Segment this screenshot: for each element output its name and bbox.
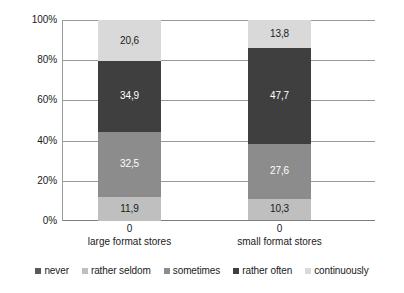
bar-segment-rather-seldom[interactable]: 10,3 [248,199,311,220]
y-tick-label: 40% [11,136,57,146]
bar-segment-value: 11,9 [120,204,138,214]
bar-segment-value: 27,6 [270,166,289,176]
bar-segment-value: 47,7 [270,91,289,101]
x-axis-zero-label: 0 [70,223,190,234]
bar-segment-sometimes[interactable]: 27,6 [248,144,311,199]
bar-segment-sometimes[interactable]: 32,5 [98,132,161,197]
y-axis-line [62,20,63,221]
bar-small-format-stores[interactable]: 13,847,727,610,3 [248,20,311,221]
legend-item-never[interactable]: never [35,266,69,276]
bar-segment-rather-often[interactable]: 47,7 [248,48,311,144]
legend-swatch-icon [305,268,311,274]
legend-item-continuously[interactable]: continuously [305,266,368,276]
bar-segment-rather-seldom[interactable]: 11,9 [98,197,161,221]
legend-item-sometimes[interactable]: sometimes [164,266,220,276]
bar-segment-value: 10,3 [270,204,289,214]
x-axis-zero-label: 0 [220,223,340,234]
y-tick-label: 60% [11,95,57,105]
y-tick-label: 20% [11,176,57,186]
legend-label: sometimes [173,266,220,276]
legend-item-rather-often[interactable]: rather often [233,266,292,276]
bar-segment-value: 20,6 [120,36,139,46]
chart-legend: neverrather seldomsometimesrather oftenc… [0,266,404,276]
legend-swatch-icon [164,268,170,274]
legend-swatch-icon [35,268,41,274]
legend-label: continuously [314,266,368,276]
bar-large-format-stores[interactable]: 20,634,932,511,9 [98,20,161,221]
bar-segment-continuously[interactable]: 20,6 [98,20,161,61]
bar-segment-continuously[interactable]: 13,8 [248,20,311,48]
legend-label: rather seldom [91,266,151,276]
bar-segment-value: 13,8 [270,29,289,39]
bar-segment-value: 32,5 [120,159,139,169]
x-axis-category-label: small format stores [205,236,355,248]
legend-label: rather often [242,266,292,276]
legend-item-rather-seldom[interactable]: rather seldom [82,266,151,276]
y-tick-label: 80% [11,55,57,65]
legend-swatch-icon [82,268,88,274]
legend-swatch-icon [233,268,239,274]
x-axis-category-label: large format stores [55,236,205,248]
legend-label: never [44,266,69,276]
bar-segment-value: 34,9 [120,91,139,101]
y-tick-label: 100% [11,15,57,25]
plot-area: 20,634,932,511,913,847,727,610,3 [62,20,375,221]
y-tick-label: 0% [11,216,57,226]
stacked-bar-chart: 100%80%60%40%20%0% 20,634,932,511,913,84… [0,0,404,293]
bar-segment-rather-often[interactable]: 34,9 [98,61,161,131]
